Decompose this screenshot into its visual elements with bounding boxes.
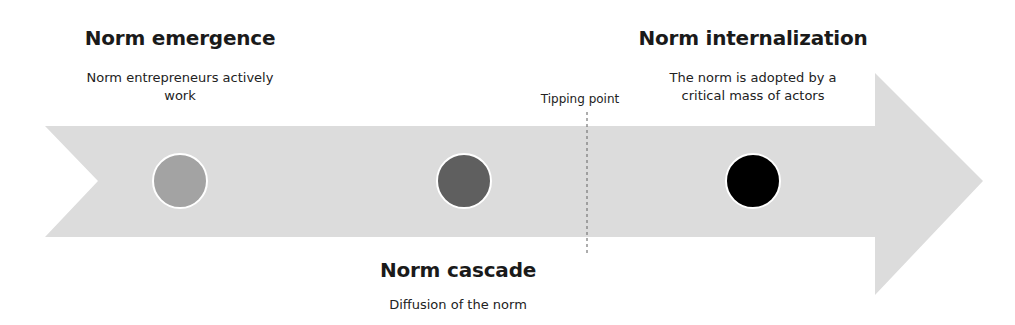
stage-title-norm-internalization: Norm internalization	[638, 26, 867, 50]
stage-desc-norm-emergence: Norm entrepreneurs actively work	[75, 69, 285, 105]
stage-2-marker	[437, 154, 491, 208]
stage-title-norm-emergence: Norm emergence	[85, 26, 276, 50]
stage-desc-norm-internalization: The norm is adopted by a critical mass o…	[653, 69, 853, 105]
stage-title-norm-cascade: Norm cascade	[380, 258, 536, 282]
stage-1-marker	[153, 154, 207, 208]
stage-3-marker	[726, 154, 780, 208]
stage-desc-norm-cascade: Diffusion of the norm	[348, 296, 568, 314]
tipping-point-label: Tipping point	[541, 92, 620, 106]
